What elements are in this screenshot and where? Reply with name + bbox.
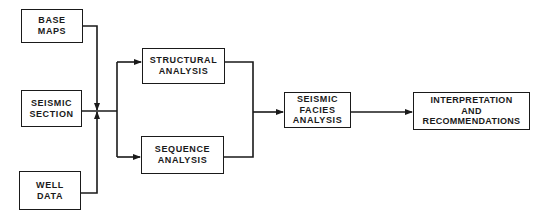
node-label: DATA <box>37 191 63 202</box>
node-label: SEISMIC <box>297 94 338 105</box>
node-interpretation-and-recommendations: INTERPRETATION AND RECOMMENDATIONS <box>413 92 530 130</box>
workflow-diagram: BASE MAPS SEISMIC SECTION WELL DATA STRU… <box>0 0 538 222</box>
node-well-data: WELL DATA <box>19 171 81 210</box>
node-label: AND <box>461 106 481 117</box>
node-label: SEQUENCE <box>155 144 210 155</box>
node-label: MAPS <box>38 26 66 37</box>
node-seismic-section: SEISMIC SECTION <box>21 90 82 127</box>
node-seismic-facies-analysis: SEISMIC FACIES ANALYSIS <box>284 92 351 128</box>
node-label: ANALYSIS <box>158 155 207 166</box>
node-base-maps: BASE MAPS <box>21 9 83 43</box>
node-structural-analysis: STRUCTURAL ANALYSIS <box>142 48 225 84</box>
edge-structural-out <box>224 62 253 157</box>
node-label: WELL <box>36 180 64 191</box>
node-label: FACIES <box>299 105 335 116</box>
node-sequence-analysis: SEQUENCE ANALYSIS <box>141 136 224 174</box>
node-label: SEISMIC <box>31 98 72 109</box>
node-label: BASE <box>38 15 65 26</box>
node-label: ANALYSIS <box>159 66 208 77</box>
edge-base-maps <box>83 26 97 110</box>
node-label: STRUCTURAL <box>150 55 218 66</box>
node-label: SECTION <box>29 109 73 120</box>
node-label: ANALYSIS <box>293 115 342 126</box>
node-label: INTERPRETATION <box>431 95 513 106</box>
edge-well-data <box>81 112 97 193</box>
node-label: RECOMMENDATIONS <box>423 116 521 127</box>
